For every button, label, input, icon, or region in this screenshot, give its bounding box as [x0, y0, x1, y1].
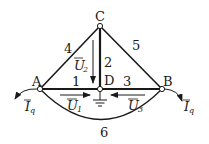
branch-label-3: 3: [123, 74, 131, 89]
svg-text:1: 1: [77, 105, 82, 114]
circuit-diagram: C A B D 1 2 3 4 5 6 U 2 U 1 U 3 I q I q: [0, 0, 209, 144]
branch-label-6: 6: [100, 125, 108, 140]
node-label-a: A: [31, 74, 42, 89]
current-arrow-left: [15, 89, 37, 99]
node-d: [97, 86, 102, 91]
node-label-b: B: [163, 74, 173, 89]
current-arrow-right: [165, 89, 182, 101]
svg-text:q: q: [30, 106, 35, 115]
branch-4: [40, 26, 100, 89]
branch-label-2: 2: [104, 55, 112, 70]
voltage-label-u2: U 2: [74, 58, 88, 74]
branch-label-1: 1: [72, 74, 80, 89]
voltage-label-u3: U 3: [128, 98, 143, 114]
branch-label-5: 5: [132, 38, 140, 53]
node-label-d: D: [104, 73, 114, 88]
node-c: [97, 23, 102, 28]
svg-text:2: 2: [82, 65, 88, 74]
branch-label-4: 4: [64, 41, 72, 56]
branch-6: [40, 89, 162, 120]
svg-text:q: q: [189, 106, 194, 115]
voltage-label-u1: U 1: [67, 98, 82, 114]
current-label-right: I q: [183, 99, 194, 115]
svg-text:3: 3: [138, 105, 143, 114]
node-label-c: C: [95, 9, 105, 24]
current-label-left: I q: [24, 99, 35, 115]
